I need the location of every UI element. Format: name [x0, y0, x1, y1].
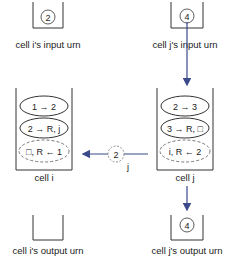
- message-ball: 2: [113, 150, 118, 160]
- rule-text: 2 → R, j: [28, 124, 61, 134]
- ball-value: 2: [45, 13, 50, 23]
- output-urn-cell-j: 4 cell j's output urn: [152, 215, 223, 256]
- rule-text: □, R ← 1: [26, 147, 62, 157]
- input-urn-cell-i: 2 cell i's input urn: [15, 2, 80, 50]
- diagram-canvas: 2 cell i's input urn 4 cell j's input ur…: [0, 0, 231, 260]
- rule-text: 1 → 2: [32, 102, 56, 112]
- rule-text: i, R ← 2: [169, 147, 202, 157]
- urn-label: cell j's input urn: [152, 39, 217, 50]
- rule-text: 2 → 3: [173, 102, 197, 112]
- ball-value: 4: [184, 12, 189, 22]
- urn-label: cell i's output urn: [13, 245, 84, 256]
- cell-label: cell j: [175, 172, 194, 183]
- rule-text: 3 → R, □: [167, 124, 204, 134]
- input-urn-cell-j: 4 cell j's input urn: [152, 2, 217, 50]
- urn-label: cell j's output urn: [152, 245, 223, 256]
- output-urn-cell-i: cell i's output urn: [13, 215, 84, 256]
- cell-j: 2 → 3 3 → R, □ i, R ← 2 cell j: [157, 88, 213, 183]
- cell-i: 1 → 2 2 → R, j □, R ← 1 cell i: [16, 88, 72, 183]
- ball-value: 4: [184, 221, 189, 231]
- message-target: j: [126, 162, 129, 172]
- cell-label: cell i: [34, 172, 53, 183]
- urn-label: cell i's input urn: [15, 39, 80, 50]
- message-transfer: 2 j: [84, 146, 148, 172]
